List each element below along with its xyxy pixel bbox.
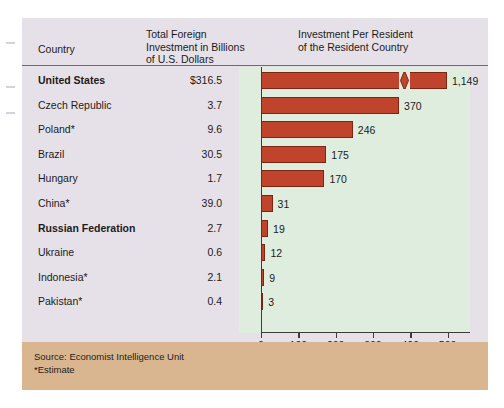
- chart-header-per-resident: Investment Per Resident of the Resident …: [298, 28, 413, 53]
- bar-value-label: 9: [269, 272, 275, 284]
- country-name-cell: China*: [38, 197, 70, 209]
- x-axis-tick: [410, 333, 411, 338]
- bar-value-label: 19: [273, 223, 285, 235]
- country-name-cell: Ukraine: [38, 246, 74, 258]
- total-investment-cell: 1.7: [142, 172, 222, 184]
- bar-value-label: 246: [358, 124, 376, 136]
- table-row: Russian Federation2.7: [22, 218, 237, 243]
- x-axis-tick: [373, 333, 374, 338]
- country-table: United States$316.5Czech Republic3.7Pola…: [22, 67, 237, 337]
- estimate-note-text: *Estimate: [34, 364, 75, 375]
- table-row: United States$316.5: [22, 70, 237, 95]
- header-divider-rule: [22, 65, 488, 66]
- page-margin-mark: [6, 86, 15, 88]
- bar: [261, 72, 447, 89]
- source-text: Source: Economist Intelligence Unit: [34, 351, 184, 362]
- bar: [261, 269, 264, 286]
- bar: [261, 170, 324, 187]
- bar-chart-plot-area: 1,14937024617517031191293 01002003004005…: [239, 67, 470, 333]
- country-name-cell: United States: [38, 74, 105, 86]
- page-margin-mark: [6, 112, 15, 114]
- bar: [261, 220, 268, 237]
- total-investment-cell: 2.7: [142, 222, 222, 234]
- total-investment-cell: $316.5: [142, 74, 222, 86]
- table-row: Czech Republic3.7: [22, 95, 237, 120]
- country-name-cell: Czech Republic: [38, 99, 112, 111]
- column-header-country: Country: [38, 43, 75, 56]
- bar-value-label: 31: [278, 198, 290, 210]
- column-header-total-investment: Total Foreign Investment in Billions of …: [146, 28, 245, 66]
- figure-footer: Source: Economist Intelligence Unit *Est…: [22, 342, 488, 390]
- x-axis-tick: [336, 333, 337, 338]
- total-investment-cell: 9.6: [142, 123, 222, 135]
- table-row: Brazil30.5: [22, 144, 237, 169]
- bar-value-label: 3: [268, 296, 274, 308]
- table-row: Poland*9.6: [22, 119, 237, 144]
- chart-figure: Country Total Foreign Investment in Bill…: [22, 18, 488, 390]
- country-name-cell: Hungary: [38, 172, 78, 184]
- x-axis-tick: [261, 333, 262, 338]
- table-row: China*39.0: [22, 193, 237, 218]
- bar: [261, 293, 263, 310]
- bar: [261, 97, 399, 114]
- x-axis-tick: [448, 333, 449, 338]
- table-row: Indonesia*2.1: [22, 267, 237, 292]
- country-name-cell: Poland*: [38, 123, 75, 135]
- total-investment-cell: 30.5: [142, 148, 222, 160]
- bar: [261, 121, 353, 138]
- country-name-cell: Russian Federation: [38, 222, 135, 234]
- x-axis-tick: [298, 333, 299, 338]
- bar: [261, 244, 265, 261]
- table-row: Hungary1.7: [22, 168, 237, 193]
- table-row: Ukraine0.6: [22, 242, 237, 267]
- total-investment-cell: 3.7: [142, 99, 222, 111]
- page-margin-mark: [6, 42, 15, 44]
- x-axis-line: [261, 332, 470, 333]
- bar-value-label: 175: [331, 149, 349, 161]
- bar-value-label: 370: [404, 100, 422, 112]
- country-name-cell: Indonesia*: [38, 271, 88, 283]
- axis-break-mark-icon: [399, 72, 410, 89]
- bar-value-label: 1,149: [452, 75, 478, 87]
- bar: [261, 146, 326, 163]
- bar-value-label: 12: [270, 247, 282, 259]
- table-row: Pakistan*0.4: [22, 291, 237, 316]
- country-name-cell: Pakistan*: [38, 295, 82, 307]
- bar: [261, 195, 273, 212]
- bar-value-label: 170: [329, 173, 347, 185]
- total-investment-cell: 0.6: [142, 246, 222, 258]
- country-name-cell: Brazil: [38, 148, 64, 160]
- total-investment-cell: 2.1: [142, 271, 222, 283]
- total-investment-cell: 39.0: [142, 197, 222, 209]
- total-investment-cell: 0.4: [142, 295, 222, 307]
